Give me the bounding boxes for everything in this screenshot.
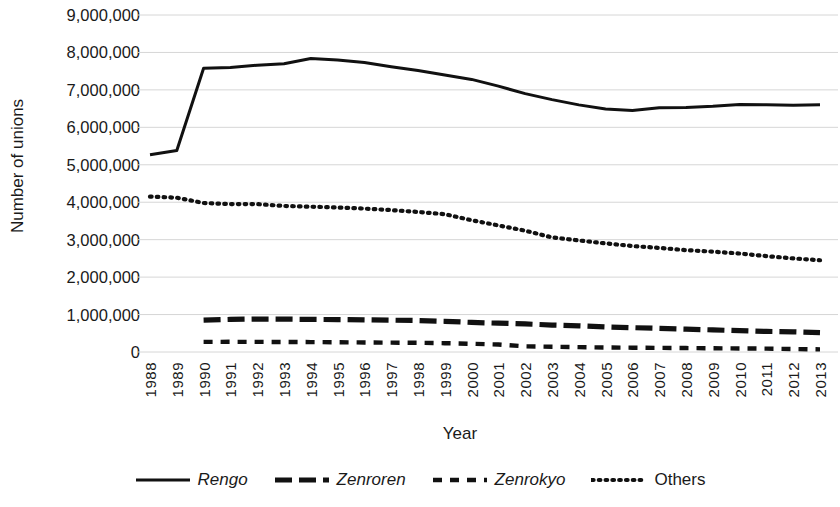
x-tick-label: 1999 — [437, 362, 454, 397]
x-tick-label: 2001 — [490, 362, 507, 397]
legend-label: Zenroren — [337, 470, 406, 490]
legend-item-zenroren[interactable]: Zenroren — [274, 470, 406, 490]
x-tick-label: 1992 — [249, 362, 266, 397]
legend-label: Others — [654, 470, 705, 490]
legend-label: Rengo — [198, 470, 248, 490]
legend-item-rengo[interactable]: Rengo — [135, 470, 248, 490]
x-tick-label: 1993 — [276, 362, 293, 397]
x-axis-title: Year — [0, 424, 840, 444]
legend-swatch-solid-icon — [135, 474, 191, 486]
x-tick-label: 2007 — [651, 362, 668, 397]
x-tick-label: 1995 — [330, 362, 347, 397]
x-tick-label: 2006 — [624, 362, 641, 397]
x-tick-label: 2009 — [705, 362, 722, 397]
x-tick-label: 2008 — [678, 362, 695, 397]
series-line-others — [150, 197, 820, 261]
x-tick-label: 1994 — [303, 362, 320, 397]
line-chart: Number of unions 9,000,0008,000,0007,000… — [0, 0, 840, 507]
legend-swatch-long-dash-icon — [274, 474, 330, 486]
x-tick-label: 2003 — [544, 362, 561, 397]
series-line-zenrokyo — [204, 342, 820, 350]
legend-label: Zenrokyo — [495, 470, 566, 490]
x-axis-tick-labels: 1988198919901991199219931994199519961997… — [0, 358, 840, 424]
x-tick-label: 2012 — [785, 362, 802, 397]
legend-item-others[interactable]: Others — [591, 470, 705, 490]
x-tick-label: 2005 — [598, 362, 615, 397]
series-line-zenroren — [204, 319, 820, 332]
legend-item-zenrokyo[interactable]: Zenrokyo — [432, 470, 566, 490]
x-tick-label: 1996 — [356, 362, 373, 397]
x-tick-label: 1988 — [142, 362, 159, 397]
x-tick-label: 2002 — [517, 362, 534, 397]
x-tick-label: 1990 — [196, 362, 213, 397]
x-tick-label: 2000 — [464, 362, 481, 397]
legend-swatch-short-dash-icon — [432, 474, 488, 486]
x-tick-label: 2013 — [812, 362, 829, 397]
plot-area — [0, 0, 840, 360]
x-tick-label: 1991 — [222, 362, 239, 397]
x-tick-label: 1989 — [169, 362, 186, 397]
series-line-rengo — [150, 58, 820, 154]
x-tick-label: 1998 — [410, 362, 427, 397]
x-tick-label: 2004 — [571, 362, 588, 397]
legend-swatch-dotted-icon — [591, 474, 647, 486]
x-tick-label: 2010 — [732, 362, 749, 397]
series-group — [150, 58, 820, 349]
chart-legend: RengoZenrorenZenrokyoOthers — [0, 470, 840, 490]
x-tick-label: 2011 — [758, 362, 775, 396]
x-tick-label: 1997 — [383, 362, 400, 397]
